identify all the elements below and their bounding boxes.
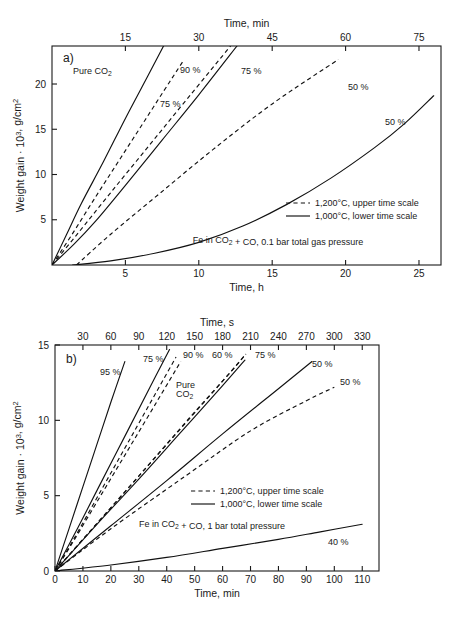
top-axis-title: Time, min bbox=[224, 17, 270, 29]
y-tick-label: 15 bbox=[38, 340, 50, 351]
curve-label: 50 % bbox=[340, 377, 361, 387]
curve-labels: Pure CO290 %75 %75 %50 %50 % bbox=[73, 65, 406, 127]
curve-label: 75 % bbox=[255, 350, 276, 360]
curve-label: 75 % bbox=[143, 354, 164, 364]
y-axis: 051015Weight gain · 103, g/cm2 bbox=[11, 340, 60, 577]
top-tick-label: 180 bbox=[214, 331, 231, 342]
plot-frame bbox=[52, 46, 441, 265]
legend-label: 1,000°C, lower time scale bbox=[315, 211, 417, 221]
curve-pure-co2-1200c bbox=[55, 362, 181, 571]
y-axis: 5101520Weight gain · 103, g/cm2 bbox=[11, 79, 57, 226]
curve-label: 90 % bbox=[180, 65, 201, 75]
panel-a: 1530456075Time, min510152025Time, h51015… bbox=[11, 17, 441, 293]
bottom-axis-title: Time, h bbox=[229, 281, 264, 293]
curve-75-percent-1200c bbox=[52, 46, 231, 265]
legend-label: 1,200°C, upper time scale bbox=[220, 486, 324, 496]
legend: 1,200°C, upper time scale1,000°C, lower … bbox=[139, 486, 324, 531]
bottom-tick-label: 70 bbox=[245, 574, 257, 585]
bottom-tick-label: 10 bbox=[193, 268, 205, 279]
curve-label: 90 % bbox=[183, 350, 204, 360]
curve-label: 75 % bbox=[160, 99, 181, 109]
bottom-tick-label: 15 bbox=[267, 268, 279, 279]
curve-75-percent-1000c bbox=[55, 350, 170, 571]
y-axis-title: Weight gain · 103, g/cm2 bbox=[11, 99, 26, 212]
curve-label: 50 % bbox=[385, 117, 406, 127]
bottom-tick-label: 5 bbox=[123, 268, 129, 279]
curve-label: Pure CO2 bbox=[73, 66, 112, 77]
y-tick-label: 20 bbox=[35, 79, 47, 90]
bottom-tick-label: 40 bbox=[161, 574, 173, 585]
top-tick-label: 60 bbox=[105, 331, 117, 342]
figure-container: 1530456075Time, min510152025Time, h51015… bbox=[0, 0, 457, 618]
curve-label: 60 % bbox=[212, 350, 233, 360]
curve-pure-co2 bbox=[52, 46, 164, 265]
top-tick-label: 15 bbox=[120, 32, 132, 43]
panel-b: 306090120150180210240270300330Time, s010… bbox=[11, 316, 379, 599]
y-tick-label: 5 bbox=[43, 490, 49, 501]
legend-annotation: Fe in CO2 + CO, 0.1 bar total gas pressu… bbox=[193, 235, 364, 247]
top-tick-label: 210 bbox=[242, 331, 259, 342]
top-tick-label: 60 bbox=[340, 32, 352, 43]
legend-annotation: Fe in CO2 + CO, 1 bar total pressure bbox=[139, 519, 285, 531]
panel-label: b) bbox=[66, 352, 77, 366]
curve-50-percent-1200c bbox=[55, 387, 334, 571]
top-tick-label: 240 bbox=[270, 331, 287, 342]
y-tick-label: 10 bbox=[35, 169, 47, 180]
top-tick-label: 30 bbox=[77, 331, 89, 342]
bottom-tick-label: 100 bbox=[326, 574, 343, 585]
bottom-tick-label: 90 bbox=[301, 574, 313, 585]
panel-label: a) bbox=[63, 51, 74, 65]
top-tick-label: 150 bbox=[186, 331, 203, 342]
top-axis-title: Time, s bbox=[200, 316, 234, 328]
y-tick-label: 10 bbox=[38, 415, 50, 426]
bottom-tick-label: 10 bbox=[77, 574, 89, 585]
bottom-tick-label: 20 bbox=[105, 574, 117, 585]
curves bbox=[52, 46, 434, 265]
bottom-tick-label: 80 bbox=[273, 574, 285, 585]
bottom-tick-label: 20 bbox=[340, 268, 352, 279]
curve-label: 95 % bbox=[100, 367, 121, 377]
bottom-tick-label: 30 bbox=[133, 574, 145, 585]
y-tick-label: 15 bbox=[35, 124, 47, 135]
curve-label: CO2 bbox=[176, 389, 194, 400]
top-tick-label: 45 bbox=[267, 32, 279, 43]
curve-60-percent-1000c bbox=[55, 360, 245, 571]
legend-label: 1,000°C, lower time scale bbox=[220, 499, 322, 509]
bottom-tick-label: 60 bbox=[217, 574, 229, 585]
curve-label: 50 % bbox=[348, 82, 369, 92]
bottom-tick-label: 25 bbox=[413, 268, 425, 279]
y-tick-label: 5 bbox=[40, 214, 46, 225]
curve-label: 50 % bbox=[312, 359, 333, 369]
top-tick-label: 90 bbox=[133, 331, 145, 342]
top-tick-label: 30 bbox=[193, 32, 205, 43]
top-tick-label: 75 bbox=[413, 32, 425, 43]
curve-label: 75 % bbox=[241, 66, 262, 76]
bottom-tick-label: 110 bbox=[354, 574, 370, 585]
curve-label: 40 % bbox=[328, 537, 349, 547]
legend: 1,200°C, upper time scale1,000°C, lower … bbox=[193, 198, 419, 247]
curves bbox=[55, 350, 362, 571]
oxidation-kinetics-figure: 1530456075Time, min510152025Time, h51015… bbox=[0, 0, 457, 618]
curve-75-percent-1000c bbox=[52, 46, 237, 265]
y-axis-title: Weight gain · 103, g/cm2 bbox=[11, 401, 26, 514]
curve-90-percent-1200c bbox=[52, 60, 184, 265]
top-tick-label: 120 bbox=[158, 331, 175, 342]
curve-labels: 95 %75 %90 %60 %75 %PureCO250 %50 %40 % bbox=[100, 350, 361, 547]
top-tick-label: 330 bbox=[354, 331, 371, 342]
legend-label: 1,200°C, upper time scale bbox=[315, 198, 419, 208]
top-tick-label: 300 bbox=[326, 331, 343, 342]
bottom-axis-title: Time, min bbox=[194, 587, 240, 599]
y-tick-label: 0 bbox=[43, 566, 49, 577]
bottom-tick-label: 0 bbox=[52, 574, 58, 585]
bottom-tick-label: 50 bbox=[189, 574, 201, 585]
top-tick-label: 270 bbox=[298, 331, 315, 342]
